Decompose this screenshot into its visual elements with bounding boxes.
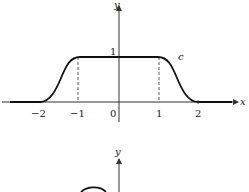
y-axis-label: y (113, 0, 120, 10)
bottom-graph: y (80, 146, 121, 192)
x-tick-label: −2 (31, 108, 46, 119)
y-axis-label-bottom: y (114, 146, 121, 157)
loop-curve-top (80, 187, 106, 192)
curve-label: c (178, 51, 184, 62)
x-tick-label: 1 (156, 108, 162, 119)
x-tick-label: 2 (195, 108, 201, 119)
bump-curve (10, 57, 232, 102)
figure-canvas: y x c 1 −2 −1 0 1 2 y (0, 0, 249, 192)
y-tick-label-1: 1 (110, 46, 116, 57)
x-axis-label: x (240, 96, 246, 107)
top-graph: y x c 1 −2 −1 0 1 2 (2, 0, 246, 122)
x-tick-label: −1 (70, 108, 85, 119)
x-tick-label: 0 (110, 108, 116, 119)
